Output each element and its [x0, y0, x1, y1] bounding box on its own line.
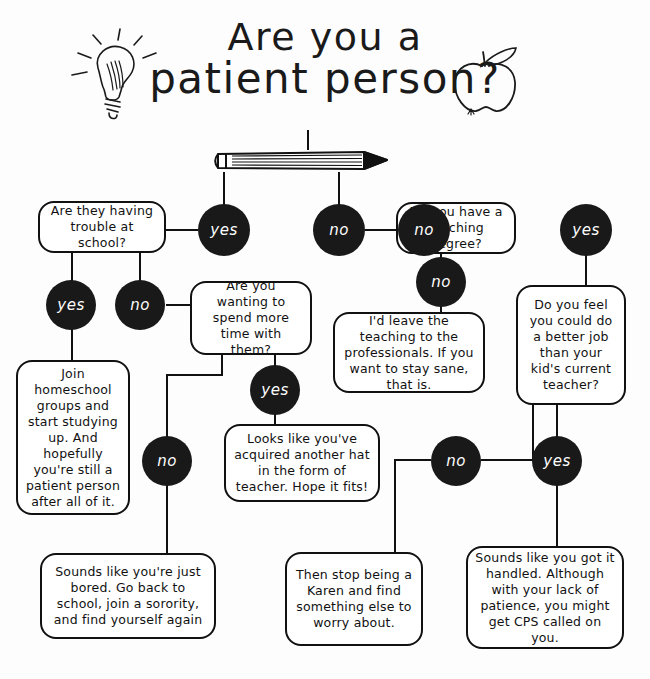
edge-label-q4-yes[interactable]: yes	[532, 436, 582, 486]
edge-label-root-yes[interactable]: yes	[198, 204, 250, 256]
node-text: I'd leave the teaching to the profession…	[342, 313, 476, 393]
node-text: Sounds like you got it handled. Although…	[475, 550, 615, 646]
pill-text: no	[446, 452, 466, 470]
question-node-trouble-at-school[interactable]: Are they having trouble at school?	[38, 201, 166, 253]
edge-label-q2-yes[interactable]: yes	[560, 204, 612, 256]
answer-node-leave-teaching[interactable]: I'd leave the teaching to the profession…	[333, 312, 485, 393]
edge-label-root-no[interactable]: no	[313, 204, 365, 256]
pill-text: no	[414, 221, 434, 239]
node-text: Are they having trouble at school?	[47, 203, 157, 251]
answer-node-just-bored[interactable]: Sounds like you're just bored. Go back t…	[40, 553, 216, 639]
pill-text: yes	[210, 221, 237, 239]
pill-text: yes	[543, 452, 570, 470]
edge-label-q2-no[interactable]: no	[416, 257, 466, 307]
pill-text: no	[431, 273, 451, 291]
node-text: Looks like you've acquired another hat i…	[233, 431, 371, 495]
pill-text: no	[130, 296, 150, 314]
edge-label-q1-no[interactable]: no	[115, 280, 165, 330]
flowchart-page: Are you a patient person?	[0, 0, 650, 679]
question-node-spend-more-time[interactable]: Are you wanting to spend more time with …	[190, 281, 312, 355]
edge-label-q1-yes[interactable]: yes	[46, 280, 96, 330]
edge-label-q2-entry-no[interactable]: no	[398, 204, 450, 256]
answer-node-stop-being-karen[interactable]: Then stop being a Karen and find somethi…	[285, 552, 423, 646]
pill-text: yes	[572, 221, 599, 239]
answer-node-got-it-handled[interactable]: Sounds like you got it handled. Although…	[466, 546, 624, 649]
pill-text: no	[157, 452, 177, 470]
pill-text: no	[329, 221, 349, 239]
node-text: Do you feel you could do a better job th…	[525, 297, 617, 393]
question-node-better-job[interactable]: Do you feel you could do a better job th…	[516, 285, 626, 405]
pill-text: yes	[57, 296, 84, 314]
edge-label-q3-yes[interactable]: yes	[250, 365, 300, 415]
node-text: Join homeschool groups and start studyin…	[25, 366, 121, 510]
answer-node-join-homeschool[interactable]: Join homeschool groups and start studyin…	[16, 360, 130, 515]
node-text: Then stop being a Karen and find somethi…	[294, 567, 414, 631]
answer-node-another-hat[interactable]: Looks like you've acquired another hat i…	[224, 424, 380, 502]
edge-label-q3-no[interactable]: no	[142, 436, 192, 486]
node-text: Are you wanting to spend more time with …	[199, 278, 303, 358]
edge-label-q4-no[interactable]: no	[431, 436, 481, 486]
node-text: Sounds like you're just bored. Go back t…	[49, 564, 207, 628]
pill-text: yes	[261, 381, 288, 399]
